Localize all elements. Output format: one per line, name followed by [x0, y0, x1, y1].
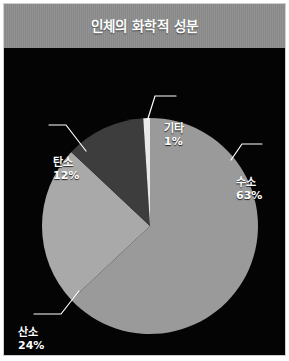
pie-label-other-pct: 1%	[164, 135, 184, 148]
pie-label-oxygen-pct: 24%	[18, 339, 44, 352]
pie-label-hydrogen-name: 수소	[236, 176, 256, 189]
pie-label-carbon-pct: 12%	[53, 169, 79, 182]
pie-label-hydrogen-pct: 63%	[236, 189, 262, 202]
pie-label-oxygen-name: 산소	[18, 326, 38, 339]
pie-label-carbon: 탄소 12%	[53, 156, 79, 182]
pie-label-hydrogen: 수소 63%	[236, 176, 262, 202]
pie-label-carbon-name: 탄소	[53, 156, 73, 169]
chart-card: 인체의 화학적 성분	[4, 4, 285, 355]
chart-title: 인체의 화학적 성분	[4, 4, 285, 48]
screenshot-root: 인체의 화학적 성분	[0, 0, 289, 361]
chart-plot-area: 기타 1% 탄소 12% 수소 63% 산소 24%	[4, 48, 285, 355]
leader-line-hydrogen	[231, 144, 262, 160]
chart-header-band: 인체의 화학적 성분	[4, 4, 285, 48]
pie-label-other: 기타 1%	[164, 122, 184, 148]
pie-label-other-name: 기타	[164, 122, 184, 135]
leader-line-other	[148, 96, 177, 120]
pie-label-oxygen: 산소 24%	[18, 326, 44, 352]
